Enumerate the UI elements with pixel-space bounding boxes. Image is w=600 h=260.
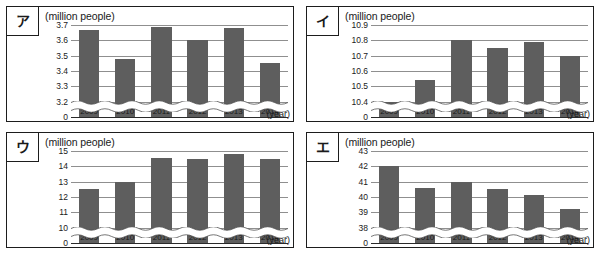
figure-caption bbox=[0, 250, 600, 260]
y-tick-label: 14 bbox=[59, 162, 68, 170]
y-tick-label: 39 bbox=[359, 208, 368, 216]
y-tick-label: 15 bbox=[59, 147, 68, 155]
x-tick-label: 2009 bbox=[371, 107, 407, 116]
y-tick-label: 3.4 bbox=[56, 67, 68, 75]
x-tick-label: 2011 bbox=[443, 233, 479, 242]
unit-label-d: (million people) bbox=[345, 136, 415, 148]
x-tick-label: 2013 bbox=[216, 107, 252, 116]
bar-cell bbox=[71, 25, 107, 117]
bar bbox=[187, 159, 207, 243]
bar bbox=[260, 159, 280, 243]
x-axis-labels-a: 200920102011201220132014 bbox=[71, 107, 288, 118]
x-axis-labels-d: 200920102011201220132014 bbox=[371, 233, 588, 244]
plot-area-c: 1514131211100 200920102011201220132014 (… bbox=[45, 151, 288, 243]
bar bbox=[524, 42, 544, 117]
bar-cell bbox=[252, 151, 288, 243]
bar-cell bbox=[552, 25, 588, 117]
y-tick-label: 3.2 bbox=[56, 98, 68, 106]
bar-cell bbox=[71, 151, 107, 243]
x-tick-label: 2010 bbox=[407, 107, 443, 116]
bar-cell bbox=[480, 151, 516, 243]
y-tick-label: 10.4 bbox=[351, 98, 368, 106]
x-tick-label: 2013 bbox=[516, 233, 552, 242]
bar-cell bbox=[516, 25, 552, 117]
bar-cell bbox=[516, 151, 552, 243]
x-tick-label: 2012 bbox=[480, 233, 516, 242]
bar-series-d bbox=[371, 151, 588, 243]
y-tick-label: 41 bbox=[359, 178, 368, 186]
y-tick-label: 10 bbox=[59, 224, 68, 232]
bar-cell bbox=[371, 25, 407, 117]
y-tick-label: 3.7 bbox=[56, 21, 68, 29]
y-tick-label: 0 bbox=[363, 113, 368, 121]
y-tick-label: 42 bbox=[359, 162, 368, 170]
bar-cell bbox=[443, 25, 479, 117]
y-tick-label: 10.6 bbox=[351, 67, 368, 75]
bar-cell bbox=[552, 151, 588, 243]
bar-cell bbox=[407, 151, 443, 243]
x-tick-label: 2011 bbox=[443, 107, 479, 116]
y-tick-label: 10.7 bbox=[351, 52, 368, 60]
x-tick-label: 2011 bbox=[143, 233, 179, 242]
y-tick-label: 12 bbox=[59, 193, 68, 201]
bar bbox=[224, 154, 244, 243]
chart-panel-a: ア (million people) 3.73.63.53.43.33.20 2… bbox=[6, 6, 294, 122]
bar-cell bbox=[107, 151, 143, 243]
y-tick-label: 3.6 bbox=[56, 36, 68, 44]
bar-cell bbox=[443, 151, 479, 243]
x-tick-label: 2012 bbox=[180, 233, 216, 242]
chart-panel-b: イ (million people) 10.910.810.710.610.51… bbox=[306, 6, 594, 122]
bar-series-a bbox=[71, 25, 288, 117]
plot-area-d: 4342414039380 200920102011201220132014 (… bbox=[345, 151, 588, 243]
chart-panel-d: エ (million people) 4342414039380 2009201… bbox=[306, 132, 594, 248]
plot-area-b: 10.910.810.710.610.510.40 20092010201120… bbox=[345, 25, 588, 117]
bar-cell bbox=[180, 151, 216, 243]
bar bbox=[151, 27, 171, 117]
y-tick-label: 10.5 bbox=[351, 82, 368, 90]
y-tick-label: 38 bbox=[359, 224, 368, 232]
y-tick-label: 3.3 bbox=[56, 82, 68, 90]
panel-label-d: エ bbox=[306, 132, 339, 162]
bar-cell bbox=[143, 151, 179, 243]
x-tick-label: 2009 bbox=[71, 107, 107, 116]
bar-series-c bbox=[71, 151, 288, 243]
y-tick-label: 10.8 bbox=[351, 36, 368, 44]
x-axis-labels-c: 200920102011201220132014 bbox=[71, 233, 288, 244]
bar bbox=[451, 40, 471, 117]
y-tick-label: 43 bbox=[359, 147, 368, 155]
bar-cell bbox=[480, 25, 516, 117]
y-tick-label: 13 bbox=[59, 178, 68, 186]
y-tick-label: 0 bbox=[363, 239, 368, 247]
bar-series-b bbox=[371, 25, 588, 117]
chart-panel-c: ウ (million people) 1514131211100 2009201… bbox=[6, 132, 294, 248]
y-axis-labels-d: 4342414039380 bbox=[345, 151, 371, 243]
panel-label-c: ウ bbox=[6, 132, 39, 162]
x-tick-label: 2010 bbox=[107, 233, 143, 242]
y-tick-label: 11 bbox=[59, 208, 68, 216]
x-axis-unit-a: (year) bbox=[266, 109, 290, 119]
y-axis-labels-c: 1514131211100 bbox=[45, 151, 71, 243]
bar-cell bbox=[252, 25, 288, 117]
bar bbox=[187, 40, 207, 117]
y-axis-labels-b: 10.910.810.710.610.510.40 bbox=[345, 25, 371, 117]
bar bbox=[379, 166, 399, 243]
x-tick-label: 2009 bbox=[371, 233, 407, 242]
bar-cell bbox=[107, 25, 143, 117]
x-axis-unit-c: (year) bbox=[266, 235, 290, 245]
x-axis-unit-b: (year) bbox=[566, 109, 590, 119]
plot-area-a: 3.73.63.53.43.33.20 20092010201120122013… bbox=[45, 25, 288, 117]
figure-root: ア (million people) 3.73.63.53.43.33.20 2… bbox=[0, 0, 600, 260]
panel-label-a: ア bbox=[6, 6, 39, 36]
bar-cell bbox=[407, 25, 443, 117]
x-axis-unit-d: (year) bbox=[566, 235, 590, 245]
bar-cell bbox=[180, 25, 216, 117]
bar bbox=[224, 28, 244, 117]
x-tick-label: 2010 bbox=[407, 233, 443, 242]
y-tick-label: 40 bbox=[359, 193, 368, 201]
x-tick-label: 2012 bbox=[480, 107, 516, 116]
bar bbox=[151, 158, 171, 243]
x-tick-label: 2011 bbox=[143, 107, 179, 116]
top-partial-text bbox=[47, 0, 87, 4]
x-tick-label: 2013 bbox=[516, 107, 552, 116]
bar-cell bbox=[216, 151, 252, 243]
